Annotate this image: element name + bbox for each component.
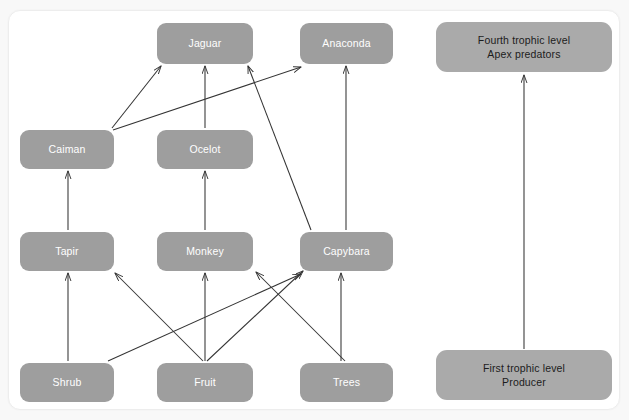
node-first-trophic-level[interactable]: First trophic level Producer bbox=[436, 350, 612, 400]
node-fruit[interactable]: Fruit bbox=[157, 363, 253, 402]
node-ocelot-label: Ocelot bbox=[189, 142, 220, 156]
node-caiman-label: Caiman bbox=[48, 142, 85, 156]
node-jaguar-label: Jaguar bbox=[188, 36, 221, 50]
node-fourth-trophic-level-label: Fourth trophic level Apex predators bbox=[478, 33, 570, 61]
node-tapir[interactable]: Tapir bbox=[20, 232, 114, 271]
node-capybara-label: Capybara bbox=[323, 244, 370, 258]
node-tapir-label: Tapir bbox=[55, 244, 79, 258]
node-monkey[interactable]: Monkey bbox=[157, 232, 253, 271]
food-web-screenshot: Jaguar Anaconda Caiman Ocelot Tapir Monk… bbox=[0, 0, 629, 420]
node-trees-label: Trees bbox=[333, 375, 360, 389]
node-shrub-label: Shrub bbox=[53, 375, 82, 389]
node-jaguar[interactable]: Jaguar bbox=[157, 23, 253, 64]
node-anaconda[interactable]: Anaconda bbox=[300, 23, 393, 64]
node-anaconda-label: Anaconda bbox=[322, 36, 371, 50]
node-capybara[interactable]: Capybara bbox=[300, 232, 393, 271]
node-first-trophic-level-label: First trophic level Producer bbox=[483, 361, 565, 389]
node-monkey-label: Monkey bbox=[186, 244, 224, 258]
node-fruit-label: Fruit bbox=[194, 375, 216, 389]
node-trees[interactable]: Trees bbox=[300, 363, 393, 402]
node-ocelot[interactable]: Ocelot bbox=[157, 130, 253, 169]
node-shrub[interactable]: Shrub bbox=[20, 363, 114, 402]
node-caiman[interactable]: Caiman bbox=[20, 130, 114, 169]
node-fourth-trophic-level[interactable]: Fourth trophic level Apex predators bbox=[436, 22, 612, 72]
